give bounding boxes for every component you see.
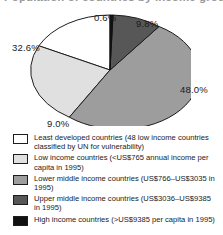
legend-item-least-developed: Least developed countries (48 low income… [0,133,223,151]
legend-swatch-high-income [13,216,28,226]
legend-label-upper-middle: Upper middle income countries (US$3036–U… [34,194,216,212]
legend-item-low-income: Low income countries (<US$765 annual inc… [0,153,223,171]
chart-title: Population of countries by income group [4,0,223,3]
legend-swatch-low-income [13,154,28,164]
legend-swatch-upper-middle [13,195,28,205]
legend-item-upper-middle: Upper middle income countries (US$3036–U… [0,194,223,212]
legend-label-low-income: Low income countries (<US$765 annual inc… [34,153,216,171]
pie-label-upper-middle: 9.8% [136,18,158,29]
pie-label-low-income: 9.0% [47,118,69,129]
legend-swatch-lower-middle [13,175,28,185]
pie-chart: 0.6% 9.8% 48.0% 9.0% 32.6% [0,6,223,131]
pie-label-least-developed: 32.6% [12,42,40,53]
legend-label-lower-middle: Lower middle income countries (US$766–US… [34,174,216,192]
chart-legend: Least developed countries (48 low income… [0,133,223,228]
pie-chart-svg [29,14,191,126]
legend-item-high-income: High income countries (>US$9385 per capi… [0,215,223,226]
legend-swatch-least-developed [13,134,28,144]
pie-label-lower-middle: 48.0% [180,84,208,95]
pie-label-high-income: 0.6% [94,12,116,23]
legend-item-lower-middle: Lower middle income countries (US$766–US… [0,174,223,192]
legend-label-high-income: High income countries (>US$9385 per capi… [34,215,215,224]
legend-label-least-developed: Least developed countries (48 low income… [34,133,216,151]
